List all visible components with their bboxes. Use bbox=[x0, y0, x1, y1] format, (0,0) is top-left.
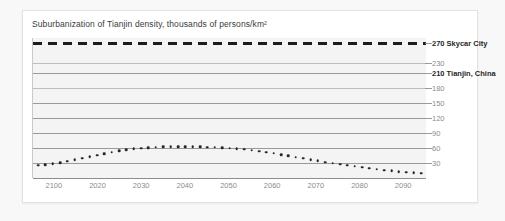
y-axis-tick-230 bbox=[425, 63, 432, 64]
data-point bbox=[221, 146, 224, 149]
y-axis-tick-60 bbox=[425, 148, 432, 149]
data-point bbox=[51, 162, 54, 165]
data-point bbox=[236, 147, 239, 150]
data-point bbox=[74, 158, 77, 161]
x-axis-label-2080: 2080 bbox=[351, 181, 368, 190]
data-point bbox=[147, 146, 150, 149]
data-point bbox=[96, 154, 99, 157]
gridline-180 bbox=[33, 88, 426, 89]
y-axis-label-60: 60 bbox=[432, 144, 440, 153]
data-point bbox=[228, 147, 231, 150]
data-point bbox=[420, 172, 423, 175]
gridline-210 bbox=[33, 73, 426, 74]
data-point bbox=[191, 145, 194, 148]
x-axis-label-2050: 2050 bbox=[220, 181, 237, 190]
y-axis-label-180: 180 bbox=[432, 84, 445, 93]
gridline-230 bbox=[33, 63, 426, 64]
y-axis-tick-30 bbox=[425, 163, 432, 164]
page-root: Suburbanization of Tianjin density, thou… bbox=[0, 0, 505, 221]
data-point bbox=[265, 151, 268, 154]
data-point bbox=[140, 147, 143, 150]
y-axis-tick-270 bbox=[425, 43, 432, 44]
data-point bbox=[302, 157, 305, 160]
y-axis-tick-150 bbox=[425, 103, 432, 104]
data-point bbox=[405, 171, 408, 174]
data-point bbox=[324, 161, 327, 164]
data-point bbox=[206, 146, 209, 149]
y-axis-tick-90 bbox=[425, 133, 432, 134]
y-axis-label-150: 150 bbox=[432, 99, 445, 108]
x-axis-labels: 210020202030204020502060207020802090 bbox=[32, 181, 425, 195]
y-axis-tick-180 bbox=[425, 88, 432, 89]
x-axis-label-2090: 2090 bbox=[395, 181, 412, 190]
data-point bbox=[213, 146, 216, 149]
gridline-30 bbox=[33, 163, 426, 164]
data-point bbox=[339, 163, 342, 166]
data-point bbox=[177, 145, 180, 148]
data-point bbox=[37, 164, 40, 167]
axis-baseline bbox=[33, 178, 426, 179]
y-axis-tick-120 bbox=[425, 118, 432, 119]
data-point bbox=[66, 160, 69, 163]
gridline-120 bbox=[33, 118, 426, 119]
data-point bbox=[103, 152, 106, 155]
data-point bbox=[398, 170, 401, 173]
data-point bbox=[376, 168, 379, 171]
plot-wrapper: 210020202030204020502060207020802090 270… bbox=[32, 38, 470, 196]
data-point bbox=[169, 145, 172, 148]
chart-card: Suburbanization of Tianjin density, thou… bbox=[22, 10, 478, 203]
data-point bbox=[287, 154, 290, 157]
data-point bbox=[125, 148, 128, 151]
x-axis-label-2040: 2040 bbox=[176, 181, 193, 190]
data-point bbox=[44, 163, 47, 166]
y-axis-label-210: 210 Tianjin, China bbox=[432, 69, 496, 78]
data-point bbox=[155, 146, 158, 149]
data-point bbox=[390, 169, 393, 172]
data-point bbox=[88, 155, 91, 158]
data-point bbox=[309, 158, 312, 161]
data-point bbox=[368, 167, 371, 170]
data-point bbox=[59, 161, 62, 164]
y-axis-label-90: 90 bbox=[432, 129, 440, 138]
y-axis-label-270: 270 Skycar City bbox=[432, 39, 487, 48]
data-point bbox=[118, 149, 121, 152]
data-point bbox=[331, 162, 334, 165]
gridline-90 bbox=[33, 133, 426, 134]
reference-line-skycar-city bbox=[33, 42, 426, 45]
data-point bbox=[258, 150, 261, 153]
chart-title: Suburbanization of Tianjin density, thou… bbox=[32, 19, 267, 29]
x-axis-label-2030: 2030 bbox=[133, 181, 150, 190]
data-point bbox=[353, 165, 356, 168]
data-point bbox=[272, 152, 275, 155]
data-point bbox=[294, 156, 297, 159]
data-point bbox=[199, 145, 202, 148]
x-axis-label-2020: 2020 bbox=[89, 181, 106, 190]
y-axis-label-30: 30 bbox=[432, 159, 440, 168]
x-axis-label-2060: 2060 bbox=[264, 181, 281, 190]
data-point bbox=[110, 151, 113, 154]
data-point bbox=[162, 145, 165, 148]
data-point bbox=[412, 171, 415, 174]
x-axis-label-2070: 2070 bbox=[307, 181, 324, 190]
data-point bbox=[250, 149, 253, 152]
data-point bbox=[383, 169, 386, 172]
data-point bbox=[346, 164, 349, 167]
data-point bbox=[280, 153, 283, 156]
plot-area bbox=[32, 38, 426, 178]
gridline-150 bbox=[33, 103, 426, 104]
data-point bbox=[317, 159, 320, 162]
y-axis-tick-210 bbox=[425, 73, 432, 74]
data-point bbox=[243, 148, 246, 151]
y-axis-label-120: 120 bbox=[432, 114, 445, 123]
data-point bbox=[132, 147, 135, 150]
data-point bbox=[184, 145, 187, 148]
y-axis-label-230: 230 bbox=[432, 59, 445, 68]
data-point bbox=[81, 157, 84, 160]
data-point bbox=[361, 166, 364, 169]
x-axis-label-2100: 2100 bbox=[45, 181, 62, 190]
